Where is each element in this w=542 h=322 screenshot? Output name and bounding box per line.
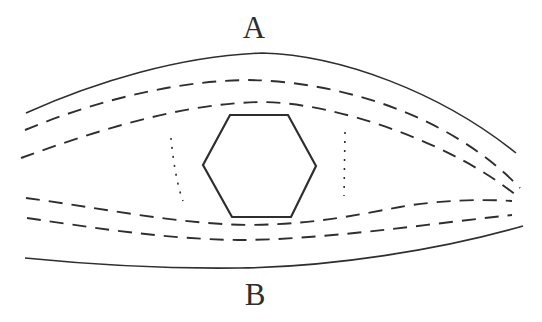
diagram-canvas: A B [0, 0, 542, 322]
left-dotted-line [171, 138, 183, 201]
label-b: B [245, 277, 266, 312]
hexagon-crystal [203, 115, 316, 217]
right-dotted-line [344, 132, 345, 196]
lower-dashed-curve-2 [27, 215, 512, 240]
diagram-page: A B [0, 0, 542, 322]
upper-dashed-curve-1 [25, 80, 520, 188]
lower-dashed-curve-1 [26, 198, 512, 225]
bottom-boundary-curve [25, 226, 523, 268]
label-a: A [243, 10, 266, 45]
